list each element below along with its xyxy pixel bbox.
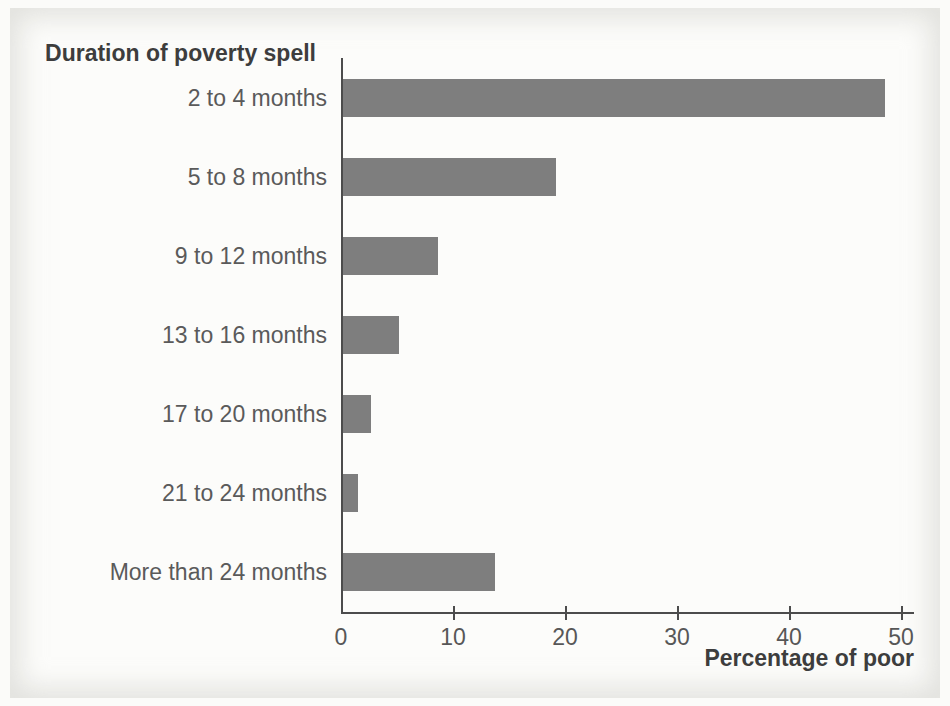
category-label: 17 to 20 months — [11, 395, 341, 433]
category-label: 2 to 4 months — [11, 79, 341, 117]
category-label: 21 to 24 months — [11, 474, 341, 512]
category-label-group: 2 to 4 months 5 to 8 months 9 to 12 mont… — [0, 58, 341, 612]
bar-2-to-4-months — [343, 79, 885, 117]
x-axis-line — [341, 612, 914, 614]
x-axis-tick — [677, 606, 679, 620]
bar-9-to-12-months — [343, 237, 438, 275]
category-label: More than 24 months — [11, 553, 341, 591]
category-label: 13 to 16 months — [11, 316, 341, 354]
x-axis-tick-label: 10 — [440, 624, 466, 651]
x-axis-tick — [789, 606, 791, 620]
x-axis-tick-label: 0 — [335, 624, 348, 651]
x-axis-tick — [453, 606, 455, 620]
x-axis-tick — [901, 606, 903, 620]
bar-17-to-20-months — [343, 395, 371, 433]
x-axis-tick — [565, 606, 567, 620]
category-label: 9 to 12 months — [11, 237, 341, 275]
chart-figure: Duration of poverty spell 2 to 4 months … — [0, 0, 950, 706]
x-axis-title: Percentage of poor — [520, 645, 930, 672]
plot-area: 0 10 20 30 40 50 — [341, 58, 901, 612]
category-label: 5 to 8 months — [11, 158, 341, 196]
bar-more-than-24-months — [343, 553, 495, 591]
bar-13-to-16-months — [343, 316, 399, 354]
bar-5-to-8-months — [343, 158, 556, 196]
bar-21-to-24-months — [343, 474, 358, 512]
